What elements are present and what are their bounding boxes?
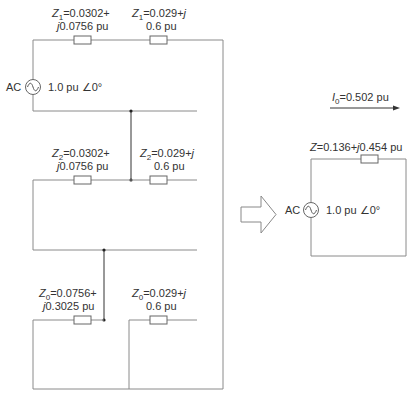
sequence-network-diagram: AC 1.0 pu ∠0° Z1=0.0302+ j0.0756 pu Z1=0… [0,0,416,398]
resistor-z1-right [150,36,167,44]
z1-left-label-line2: j0.0756 pu [55,20,108,32]
positive-sequence-network: AC 1.0 pu ∠0° Z1=0.0302+ j0.0756 pu Z1=0… [6,7,197,111]
equivalent-impedance-label: Z=0.136+j0.454 pu [309,141,402,153]
z2-left-label-line2: j0.0756 pu [55,160,108,172]
equivalence-arrow-icon [241,196,276,233]
equivalent-circuit: Z=0.136+j0.454 pu AC 1.0 pu ∠0° [285,141,406,256]
z0-left-label-line2: j0.3025 pu [41,300,94,312]
current-label: I0=0.502 pu [332,91,389,106]
junction-dot [102,248,105,251]
resistor-z1-left [74,36,91,44]
current-indicator: I0=0.502 pu [330,91,400,111]
z0-right-label-line2: 0.6 pu [146,300,177,312]
ac-source-icon [304,203,319,218]
resistor-z0-right [150,316,167,324]
resistor-z0-left [74,316,91,324]
source-value-label: 1.0 pu ∠0° [48,81,102,93]
resistor-z2-right [150,176,167,184]
current-arrowhead-icon [393,106,400,111]
z2-right-label-line2: 0.6 pu [154,160,185,172]
negative-sequence-network: Z2=0.0302+ j0.0756 pu Z2=0.029+j 0.6 pu [33,147,197,250]
ac-source-label: AC [6,81,21,93]
resistor-z2-left [74,176,91,184]
ac-source-icon [26,80,41,95]
z1-right-label-line2: 0.6 pu [146,20,177,32]
equivalent-ac-source-label: AC [285,204,300,216]
resistor-z-equivalent [361,155,378,163]
zero-sequence-network: Z0=0.0756+ j0.3025 pu Z0=0.029+j 0.6 pu [33,287,197,389]
junction-dot [129,109,132,112]
equivalent-source-value-label: 1.0 pu ∠0° [326,204,380,216]
